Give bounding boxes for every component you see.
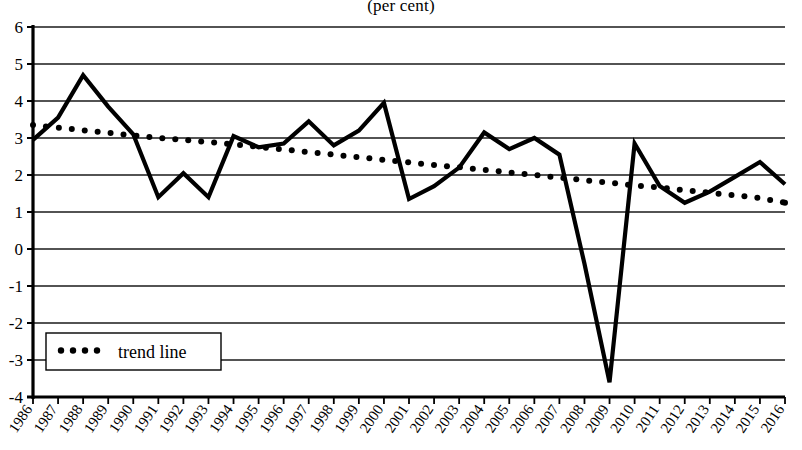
y-axis-tick-label: 2	[15, 166, 24, 185]
chart-legend: trend line	[46, 333, 221, 370]
x-axis-tick-label: 1987	[31, 401, 61, 435]
x-axis-tick-label: 2009	[582, 402, 612, 436]
legend-item-label: trend line	[118, 342, 186, 362]
chart-canvas: 6543210-1-2-3-4 198619871988198919901991…	[0, 0, 802, 450]
y-axis-tick-label: -1	[9, 277, 23, 296]
x-axis-tick-label: 2016	[757, 401, 787, 435]
x-axis-tick-label: 1990	[106, 402, 136, 436]
x-axis-tick-labels: 1986198719881989199019911992199319941995…	[5, 401, 787, 435]
x-axis-tick-label: 1999	[331, 402, 361, 436]
y-axis-tick-label: 6	[15, 18, 24, 37]
x-axis-tick-label: 2003	[432, 402, 462, 436]
chart-container: (per cent) 6543210-1-2-3-4 1986198719881…	[0, 0, 802, 450]
x-axis-tick-label: 2012	[657, 402, 687, 436]
x-axis-tick-label: 2007	[532, 401, 562, 435]
x-axis-tick-label: 2001	[381, 402, 411, 436]
y-axis-tick-label: -2	[9, 314, 23, 333]
x-axis-tick-label: 1997	[281, 401, 311, 435]
x-axis-tick-label: 2005	[482, 402, 512, 436]
x-axis-tick-label: 2011	[632, 402, 662, 435]
x-axis-tick-label: 1998	[306, 402, 336, 436]
x-axis-tick-label: 2008	[557, 402, 587, 436]
x-axis-tick-label: 1995	[231, 402, 261, 436]
y-axis-tick-label: 4	[15, 92, 24, 111]
chart-title: (per cent)	[0, 0, 802, 16]
x-axis-tick-label: 1991	[131, 402, 161, 436]
x-axis-tick-label: 1989	[81, 402, 111, 436]
x-axis-tick-label: 2000	[356, 402, 386, 436]
y-axis-tick-label: 1	[15, 203, 24, 222]
x-axis-tick-label: 2015	[732, 402, 762, 436]
x-axis-tick-label: 1993	[181, 402, 211, 436]
y-axis-tick-label: -3	[9, 351, 23, 370]
y-axis-tick-label: 3	[15, 129, 24, 148]
x-axis-tick-label: 1994	[206, 401, 236, 435]
x-axis-tick-label: 2014	[707, 401, 737, 435]
x-axis-tick-label: 2013	[682, 402, 712, 436]
x-axis-tick-label: 2004	[457, 401, 487, 435]
y-axis-tick-label: 0	[15, 240, 24, 259]
x-axis-tick-label: 1988	[56, 402, 86, 436]
x-axis-tick-label: 2002	[407, 402, 437, 436]
x-axis-tick-label: 2010	[607, 402, 637, 436]
y-axis-tick-labels: 6543210-1-2-3-4	[9, 18, 24, 407]
y-axis-tick-label: 5	[15, 55, 24, 74]
x-axis-tick-label: 1992	[156, 402, 186, 436]
x-axis-tick-label: 2006	[507, 401, 537, 435]
x-axis-tick-label: 1996	[256, 401, 286, 435]
